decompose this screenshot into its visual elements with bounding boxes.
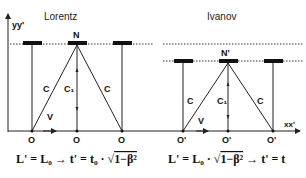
ivanov-formula: L' = L₀ · √1−β² → t' = t — [168, 152, 285, 166]
x-axis-label: xx' — [284, 120, 295, 129]
origin-point — [76, 130, 79, 133]
mirror-1 — [174, 59, 193, 63]
arrow-down-icon — [227, 115, 230, 119]
origin-label: O — [73, 135, 80, 145]
light-label-c1: C₁ — [217, 96, 227, 106]
mirror-2 — [68, 41, 87, 45]
mirror-3 — [264, 59, 283, 63]
origin-label: O' — [177, 135, 186, 145]
origin-label: O — [118, 135, 125, 145]
light-label-c1: C₁ — [64, 84, 74, 94]
mirror-n-label: N — [73, 30, 80, 40]
light-label-c-right: C — [104, 84, 111, 94]
velocity-label: V — [47, 112, 53, 122]
diagram-canvas: yy' xx' Lorentz N C C₁ C V O O O L' = L₀… — [0, 0, 306, 178]
mirror-2 — [219, 59, 238, 63]
origin-label: O — [28, 135, 35, 145]
light-label-c-right: C — [257, 96, 264, 106]
origin-label: O' — [267, 135, 276, 145]
origin-point — [272, 130, 275, 133]
origin-point — [227, 130, 230, 133]
velocity-label: V — [198, 116, 204, 126]
mirror-1 — [23, 41, 42, 45]
arrow-up-icon — [76, 68, 79, 72]
arrow-up-icon — [227, 82, 230, 86]
mirror-3 — [113, 41, 132, 45]
light-path-down — [77, 45, 122, 131]
lorentz-formula: L' = L₀ → t' = t₀ · √1−β² — [16, 152, 137, 166]
origin-label: O' — [222, 135, 231, 145]
mirror-n-prime-label: N' — [221, 48, 230, 58]
arrow-down-icon — [76, 107, 79, 111]
origin-point — [121, 130, 124, 133]
light-path-down — [228, 63, 273, 131]
y-axis-label: yy' — [12, 20, 24, 30]
origin-point — [31, 130, 34, 133]
light-label-c-left: C — [187, 96, 194, 106]
light-label-c-left: C — [43, 84, 50, 94]
ivanov-title: Ivanov — [207, 11, 236, 22]
origin-point — [182, 130, 185, 133]
lorentz-title: Lorentz — [44, 11, 77, 22]
